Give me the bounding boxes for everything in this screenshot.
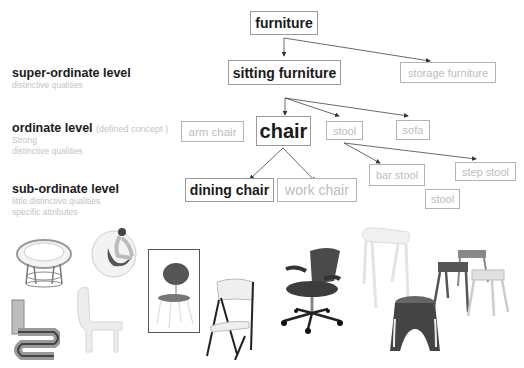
level-description: specific attributes — [12, 207, 119, 218]
level-title: super-ordinate level — [12, 66, 131, 80]
node-sofa: sofa — [396, 120, 430, 140]
level-aside: (defined concept ) — [96, 124, 168, 134]
node-furniture: furniture — [250, 11, 318, 35]
level-description: little distinctive qualities — [12, 196, 119, 207]
papasan-chair-photo — [14, 236, 74, 288]
folding-chair-photo — [205, 278, 257, 360]
node-work-chair: work chair — [277, 178, 357, 202]
node-bar-stool: bar stool — [369, 164, 425, 186]
node-arm-chair: arm chair — [181, 121, 244, 142]
level-description: distinctive qualities — [12, 80, 131, 91]
stacked-metal-stools-photo — [432, 246, 516, 318]
node-dining-chair: dining chair — [185, 178, 274, 202]
node-stool: stool — [326, 121, 363, 140]
node-stool-sub: stool — [425, 189, 460, 209]
shell-dining-chair-photo — [148, 249, 200, 333]
level-title: sub-ordinate level — [12, 182, 119, 196]
level-ordinate: ordinate level (defined concept ) Strong… — [12, 121, 168, 157]
plastic-chair-photo — [74, 286, 128, 356]
level-super-ordinate: super-ordinate level distinctive qualiti… — [12, 66, 131, 91]
level-title-text: ordinate level — [12, 121, 93, 135]
node-chair: chair — [256, 116, 311, 146]
level-title: ordinate level (defined concept ) — [12, 121, 168, 135]
ball-chair-photo — [88, 224, 140, 278]
node-sitting-furniture: sitting furniture — [228, 60, 341, 85]
level-sub-ordinate: sub-ordinate level little distinctive qu… — [12, 182, 119, 218]
mesh-office-chair-photo — [278, 245, 352, 337]
level-description: distinctive qualities — [12, 146, 168, 157]
wiggle-chair-photo — [10, 298, 60, 362]
node-storage-furniture: storage furniture — [400, 62, 496, 83]
node-step-stool: step stool — [455, 162, 516, 181]
level-description: Strong — [12, 135, 168, 146]
